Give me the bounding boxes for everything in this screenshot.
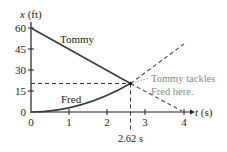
x-tick-2: 2	[104, 116, 110, 128]
x-tick-4: 4	[181, 116, 187, 128]
time-marker-label: 2.62 s	[118, 133, 143, 144]
x-axis-label: t (s)	[195, 106, 213, 119]
position-time-chart: 60 45 30 15 0 0 1 2 3 4 x (ft) t (s) Tom…	[0, 0, 227, 152]
y-axis-label: x (ft)	[19, 8, 42, 21]
fred-label: Fred	[61, 93, 82, 105]
y-tick-45: 45	[15, 43, 27, 55]
x-tick-1: 1	[66, 116, 72, 128]
y-tick-30: 30	[15, 64, 27, 76]
tackle-note-line2: Fred here.	[151, 86, 194, 97]
tackle-note-line1: Tommy tackles	[151, 73, 215, 84]
y-tick-15: 15	[15, 85, 27, 97]
annotation-leader	[132, 78, 149, 83]
tackle-point	[129, 82, 133, 86]
y-tick-60: 60	[15, 22, 27, 34]
x-tick-0: 0	[28, 116, 34, 128]
x-tick-3: 3	[142, 116, 148, 128]
y-tick-0: 0	[21, 106, 27, 118]
tommy-label: Tommy	[60, 33, 95, 45]
